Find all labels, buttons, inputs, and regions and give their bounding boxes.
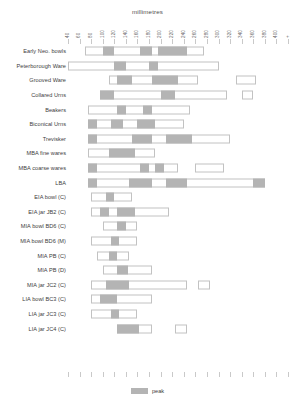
peak-segment [140,164,149,173]
row-track [0,205,295,220]
peak-segment [161,91,175,100]
legend-label-peak: peak [152,388,164,394]
bottom-tick-mark [276,372,277,377]
chart-row: Early Neo. bowls [0,44,295,59]
top-tick-label: 160 [134,30,139,38]
peak-segment [117,324,139,333]
top-tick-label: 240 [181,30,186,38]
chart-row: Biconical Urns [0,117,295,132]
top-tick-label: 180 [146,30,151,38]
bottom-tick-mark [114,372,115,377]
row-track [0,190,295,205]
peak-segment [149,61,158,70]
row-track [0,117,295,132]
row-track [0,321,295,336]
range-segment [198,280,210,289]
top-axis: 4060801001201401601802002202402602803003… [0,22,295,44]
chart-rows: Early Neo. bowlsPeterborough WareGrooved… [0,44,295,336]
top-tick-label: 360 [250,30,255,38]
peak-segment [117,266,127,275]
bottom-tick-mark [137,372,138,377]
bottom-tick-mark [207,372,208,377]
top-tick-label: 80 [88,33,93,38]
peak-segment [143,105,152,114]
row-track [0,234,295,249]
bottom-tick-mark [288,372,289,377]
top-tick-label: 280 [204,30,209,38]
peak-segment [140,47,152,56]
chart-row: MIA bowl BD6 (C) [0,219,295,234]
row-track [0,73,295,88]
row-track [0,132,295,147]
bottom-tick-mark [242,372,243,377]
top-tick-label: 320 [227,30,232,38]
peak-segment [117,105,126,114]
peak-segment [88,120,97,129]
chart-row: Grooved Ware [0,73,295,88]
row-track [0,146,295,161]
bottom-tick-mark [68,372,69,377]
peak-segment [109,149,135,158]
bottom-tick-mark [103,372,104,377]
chart-row: MIA bowl BD6 (M) [0,234,295,249]
bottom-tick-mark [161,372,162,377]
chart-row: MBA coarse wares [0,161,295,176]
peak-segment [100,207,109,216]
range-segment [242,91,254,100]
peak-segment [166,134,192,143]
peak-segment [137,120,154,129]
top-tick-label: 340 [238,30,243,38]
bottom-tick-mark [195,372,196,377]
top-tick-label: + [285,35,290,38]
row-track [0,292,295,307]
legend: peak [0,388,295,394]
bottom-tick-mark [172,372,173,377]
bottom-tick-mark [253,372,254,377]
peak-segment [152,76,178,85]
range-segment [88,120,184,129]
bottom-tick-mark [219,372,220,377]
bottom-tick-mark [149,372,150,377]
peak-segment [111,237,119,246]
chart-row: EIA jar JB2 (C) [0,205,295,220]
peak-segment [103,47,115,56]
chart-row: Collared Urns [0,88,295,103]
row-track [0,102,295,117]
chart-row: Trevisker [0,132,295,147]
peak-segment [109,251,118,260]
peak-segment [106,280,129,289]
peak-segment [158,47,187,56]
peak-segment [253,178,265,187]
bottom-tick-mark [230,372,231,377]
peak-segment [166,178,186,187]
row-track [0,278,295,293]
range-segment [88,164,178,173]
top-tick-label: 140 [123,30,128,38]
row-track [0,307,295,322]
row-track [0,161,295,176]
bottom-tick-mark [184,372,185,377]
chart-row: LBA [0,175,295,190]
axis-title: millimetres [0,8,295,15]
peak-segment [155,164,164,173]
top-tick-label: 380 [262,30,267,38]
top-tick-label: 200 [157,30,162,38]
row-track [0,248,295,263]
top-tick-label: 400 [273,30,278,38]
peak-segment [111,120,123,129]
range-segment [195,164,224,173]
row-track [0,263,295,278]
bottom-axis [0,372,295,380]
row-track [0,59,295,74]
top-tick-label: 260 [192,30,197,38]
row-track [0,44,295,59]
bottom-tick-mark [91,372,92,377]
peak-segment [117,207,134,216]
range-segment [68,61,219,70]
legend-swatch-peak [131,388,148,394]
top-tick-label: 60 [76,33,81,38]
peak-segment [88,134,97,143]
chart-row: MIA PB (C) [0,248,295,263]
row-track [0,219,295,234]
chart-row: MBA fine wares [0,146,295,161]
